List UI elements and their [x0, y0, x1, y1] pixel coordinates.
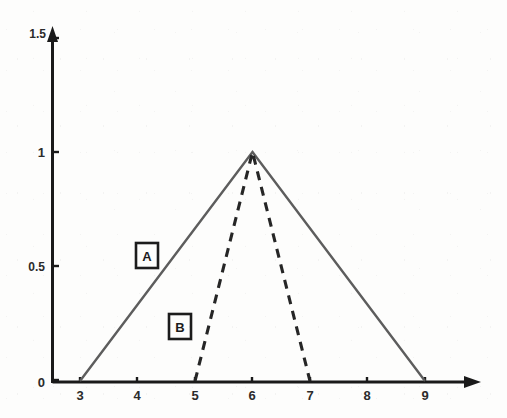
- series-a-curve: [80, 152, 425, 381]
- series-b-annotation: B: [169, 314, 191, 339]
- x-tick-label-6: 6: [248, 388, 255, 403]
- x-tick-label-3: 3: [76, 388, 83, 403]
- x-tick-label-8: 8: [363, 388, 370, 403]
- y-tick-label-0: 0: [38, 375, 45, 390]
- series-b-annotation-label: B: [175, 320, 184, 335]
- x-axis-arrow-icon: [464, 376, 481, 388]
- y-tick-label-0-5: 0.5: [28, 260, 45, 274]
- x-tick-labels-group: 3 4 5 6 7 8 9: [76, 388, 428, 403]
- x-tick-label-5: 5: [191, 388, 198, 403]
- series-a-annotation-label: A: [142, 249, 152, 264]
- y-tick-label-1-5: 1.5: [29, 27, 46, 41]
- y-axis-arrow-icon: [47, 26, 58, 42]
- axes-group: [47, 26, 481, 388]
- triangular-membership-chart: 3 4 5 6 7 8 9 0 0.5 1 1.5 A B: [0, 0, 507, 418]
- series-b-curve: [195, 152, 310, 381]
- series-a-annotation: A: [136, 243, 158, 268]
- x-tick-label-7: 7: [306, 388, 313, 403]
- y-tick-labels-group: 0 0.5 1 1.5: [28, 27, 46, 390]
- x-tick-label-9: 9: [421, 388, 428, 403]
- x-tick-label-4: 4: [133, 388, 141, 403]
- y-tick-label-1: 1: [38, 145, 45, 160]
- chart-figure: 3 4 5 6 7 8 9 0 0.5 1 1.5 A B: [0, 0, 507, 418]
